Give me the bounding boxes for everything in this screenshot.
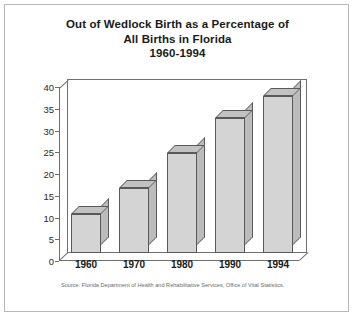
bar-front-face-1960 — [71, 214, 101, 253]
bar-front-face-1994 — [263, 96, 293, 253]
y-axis-label-10: 10 — [43, 212, 54, 223]
x-axis-label-1970: 1970 — [119, 259, 149, 270]
bar-side-face-1980 — [197, 137, 205, 245]
y-axis-tick-30 — [55, 131, 59, 132]
bar-1980: 1980 — [167, 153, 197, 253]
y-axis-tick-20 — [55, 174, 59, 175]
source-note: Source: Florida Department of Health and… — [61, 282, 311, 290]
y-axis-tick-25 — [55, 152, 59, 153]
y-axis-tick-10 — [55, 218, 59, 219]
bar-1990: 1990 — [215, 118, 245, 253]
bar-front-face-1980 — [167, 153, 197, 253]
y-axis-tick-5 — [55, 239, 59, 240]
y-axis-label-40: 40 — [43, 82, 54, 93]
x-axis-label-1990: 1990 — [215, 259, 245, 270]
x-axis-label-1980: 1980 — [167, 259, 197, 270]
y-axis-label-25: 25 — [43, 147, 54, 158]
chart-title-line-2: All Births in Florida — [5, 32, 350, 47]
bar-1960: 1960 — [71, 214, 101, 253]
bar-front-face-1990 — [215, 118, 245, 253]
y-axis-label-0: 0 — [49, 256, 54, 267]
y-axis-tick-15 — [55, 196, 59, 197]
y-axis-label-35: 35 — [43, 103, 54, 114]
axis-depth-line-bottom-right — [299, 252, 309, 261]
plot-area: 0510152025303540 19601970198019901994 — [59, 79, 307, 261]
bar-side-face-1990 — [245, 102, 253, 245]
chart-frame: Out of Wedlock Birth as a Percentage of … — [4, 4, 349, 312]
y-axis-tick-35 — [55, 109, 59, 110]
chart-title: Out of Wedlock Birth as a Percentage of … — [5, 17, 350, 61]
bar-front-face-1970 — [119, 188, 149, 253]
y-axis-label-15: 15 — [43, 190, 54, 201]
chart-title-line-3: 1960-1994 — [5, 46, 350, 61]
y-axis-label-5: 5 — [49, 234, 54, 245]
bar-1994: 1994 — [263, 96, 293, 253]
bar-1970: 1970 — [119, 188, 149, 253]
x-axis-label-1960: 1960 — [71, 259, 101, 270]
bar-side-face-1960 — [101, 198, 109, 245]
y-axis-label-20: 20 — [43, 169, 54, 180]
y-axis-tick-0 — [55, 261, 59, 262]
y-axis-line — [59, 87, 60, 261]
y-axis-label-30: 30 — [43, 125, 54, 136]
chart-title-line-1: Out of Wedlock Birth as a Percentage of — [5, 17, 350, 32]
y-axis-tick-40 — [55, 87, 59, 88]
bar-side-face-1994 — [293, 80, 301, 245]
x-axis-label-1994: 1994 — [263, 259, 293, 270]
